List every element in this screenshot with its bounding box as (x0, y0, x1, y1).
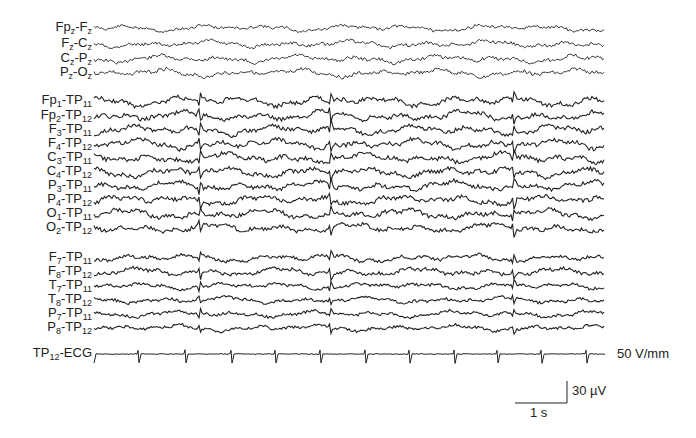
scale-bar-voltage-label: 30 µV (572, 383, 606, 398)
eeg-traces (0, 0, 696, 438)
eeg-trace (94, 251, 604, 264)
eeg-trace (94, 280, 604, 291)
channel-label: Fp1-TP11 (42, 93, 92, 107)
eeg-trace (94, 119, 604, 138)
eeg-trace (94, 220, 604, 237)
eeg-trace (94, 194, 604, 210)
channel-label: Fp2-TP12 (41, 108, 92, 122)
eeg-trace (94, 324, 604, 335)
channel-label: P3-TP11 (48, 178, 92, 192)
channel-label: C3-TP11 (47, 150, 92, 164)
channel-label: Pz-Oz (60, 65, 92, 79)
channel-label: F7-TP11 (49, 250, 92, 264)
eeg-figure: Fpz-FzFz-CzCz-PzPz-OzFp1-TP11Fp2-TP12F3-… (0, 0, 696, 438)
eeg-trace (94, 295, 604, 304)
channel-label: Cz-Pz (61, 51, 92, 65)
ecg-channel-label: TP12-ECG (33, 346, 92, 360)
eeg-trace (94, 39, 604, 49)
eeg-trace (94, 138, 604, 154)
channel-label: P8-TP12 (47, 320, 92, 334)
eeg-trace (94, 150, 604, 164)
channel-label: O2-TP12 (46, 220, 92, 234)
channel-label: P4-TP12 (47, 192, 92, 206)
channel-label: T8-TP12 (48, 292, 92, 306)
channel-label: O1-TP11 (47, 206, 92, 220)
eeg-trace (94, 177, 604, 194)
channel-label: Fpz-Fz (56, 20, 92, 34)
channel-label: Fz-Cz (61, 36, 92, 50)
channel-label: F3-TP11 (49, 122, 92, 136)
eeg-trace (94, 54, 604, 65)
channel-label: P7-TP11 (48, 306, 92, 320)
eeg-trace (94, 266, 604, 280)
scale-bar-time-label: 1 s (530, 405, 547, 420)
ecg-trace (94, 350, 605, 364)
scale-bar (515, 381, 567, 403)
eeg-trace (94, 206, 604, 221)
channel-label: F4-TP12 (48, 136, 92, 150)
channel-label: F8-TP12 (48, 264, 92, 278)
eeg-trace (94, 309, 604, 319)
eeg-trace (94, 24, 604, 32)
channel-label: C4-TP12 (47, 164, 92, 178)
eeg-trace (94, 67, 604, 79)
eeg-trace (94, 92, 604, 108)
channel-label: T7-TP11 (49, 278, 92, 292)
ecg-gain-label: 50 V/mm (617, 346, 669, 361)
eeg-trace (94, 167, 604, 182)
eeg-trace (94, 108, 604, 125)
